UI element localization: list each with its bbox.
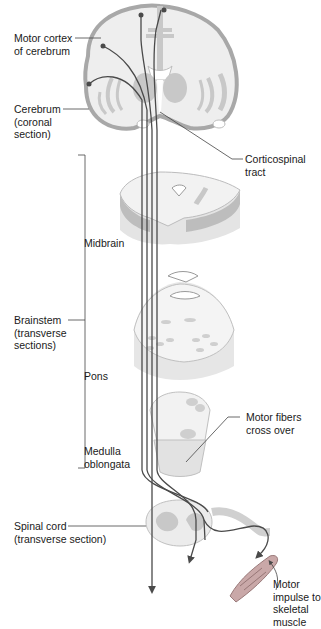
label-line: Medulla [84,445,130,458]
pons-section [134,272,234,381]
label-spinal-cord: Spinal cord (transverse section) [14,520,106,545]
label-line: Spinal cord [14,520,106,533]
label-line: Brainstem [14,314,67,327]
label-brainstem: Brainstem (transverse sections) [14,314,67,352]
label-pons: Pons [84,370,108,383]
label-line: (coronal [14,116,61,129]
label-line: muscle [273,616,321,629]
label-cerebrum: Cerebrum (coronal section) [14,103,61,141]
label-corticospinal-tract: Corticospinal tract [245,153,306,178]
cerebrum-coronal-section [85,6,237,129]
label-line: tract [245,166,306,179]
label-line: sections) [14,339,67,352]
label-line: Motor fibers [246,411,301,424]
label-motor-impulse: Motor impulse to skeletal muscle [273,578,321,628]
label-line: Corticospinal [245,153,306,166]
label-line: Motor [273,578,321,591]
label-line: skeletal [273,603,321,616]
label-line: Pons [84,370,108,383]
label-medulla: Medulla oblongata [84,445,130,470]
label-line: Motor cortex [14,32,72,45]
label-line: Midbrain [84,237,124,250]
label-line: impulse to [273,591,321,604]
label-motor-fibers-cross: Motor fibers cross over [246,411,301,436]
spinal-cord-section [146,500,270,546]
label-line: of cerebrum [14,45,72,58]
label-line: cross over [246,424,301,437]
medulla-section [150,392,210,477]
label-line: section) [14,128,61,141]
label-line: oblongata [84,458,130,471]
midbrain-section [120,172,240,244]
label-motor-cortex: Motor cortex of cerebrum [14,32,72,57]
label-line: (transverse [14,327,67,340]
label-line: Cerebrum [14,103,61,116]
label-midbrain: Midbrain [84,237,124,250]
label-line: (transverse section) [14,533,106,546]
